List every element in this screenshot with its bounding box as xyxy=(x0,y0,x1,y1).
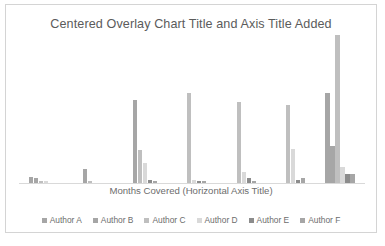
plot-area[interactable] xyxy=(19,27,365,183)
legend-swatch-icon xyxy=(300,218,305,223)
bar[interactable] xyxy=(138,150,142,183)
bar-group xyxy=(29,27,59,183)
legend-item[interactable]: Author D xyxy=(197,215,238,225)
bar-group xyxy=(276,27,306,183)
bar[interactable] xyxy=(187,93,191,183)
legend-swatch-icon xyxy=(197,218,202,223)
legend-label: Author B xyxy=(101,215,134,225)
bar[interactable] xyxy=(237,102,241,183)
bar-group xyxy=(78,27,108,183)
bar[interactable] xyxy=(242,172,246,183)
legend-label: Author C xyxy=(152,215,185,225)
bar[interactable] xyxy=(325,93,329,183)
bar[interactable] xyxy=(345,174,349,183)
bar[interactable] xyxy=(330,146,334,183)
bar-group xyxy=(227,27,257,183)
bar[interactable] xyxy=(83,169,87,183)
legend-label: Author A xyxy=(50,215,82,225)
legend-item[interactable]: Author A xyxy=(42,215,82,225)
legend-item[interactable]: Author B xyxy=(93,215,134,225)
horizontal-axis-title: Months Covered (Horizontal Axis Title) xyxy=(6,185,376,196)
legend-label: Author E xyxy=(257,215,290,225)
bar[interactable] xyxy=(335,35,339,183)
chart-container[interactable]: Centered Overlay Chart Title and Axis Ti… xyxy=(5,4,377,233)
legend-swatch-icon xyxy=(144,218,149,223)
legend-label: Author F xyxy=(308,215,340,225)
bar-group xyxy=(128,27,158,183)
legend-item[interactable]: Author C xyxy=(144,215,185,225)
chart-legend[interactable]: Author AAuthor BAuthor CAuthor DAuthor E… xyxy=(6,215,376,225)
bar[interactable] xyxy=(143,163,147,183)
legend-swatch-icon xyxy=(249,218,254,223)
legend-item[interactable]: Author E xyxy=(249,215,290,225)
bar[interactable] xyxy=(286,105,290,183)
bar-group xyxy=(177,27,207,183)
bar[interactable] xyxy=(133,100,137,183)
bar-group xyxy=(325,27,355,183)
horizontal-axis-line xyxy=(19,183,365,184)
legend-swatch-icon xyxy=(42,218,47,223)
legend-item[interactable]: Author F xyxy=(300,215,340,225)
bar[interactable] xyxy=(340,167,344,183)
legend-swatch-icon xyxy=(93,218,98,223)
bar[interactable] xyxy=(291,149,295,183)
legend-label: Author D xyxy=(205,215,238,225)
bar[interactable] xyxy=(350,174,354,183)
